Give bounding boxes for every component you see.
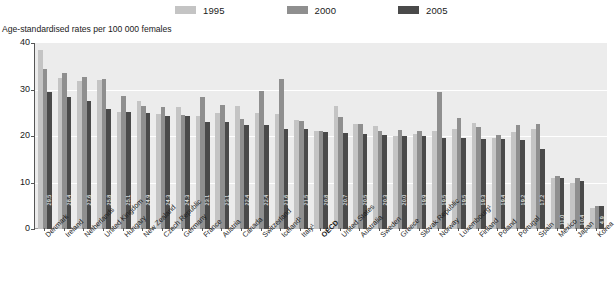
bar-group: 20.7 bbox=[331, 43, 351, 229]
bar-2005: 23.1 bbox=[225, 122, 230, 229]
bar-2005: 28.4 bbox=[67, 97, 72, 229]
bar-2005: 19.9 bbox=[422, 136, 427, 229]
category-label-new-zealand: New Zealand bbox=[133, 231, 153, 288]
category-label-ireland: Ireland bbox=[54, 231, 74, 288]
bar-value-label: 29.5 bbox=[46, 195, 52, 206]
bar-group: 25.8 bbox=[94, 43, 114, 229]
bar-2005: 24.9 bbox=[146, 113, 151, 229]
bar-value-label: 21.5 bbox=[303, 195, 309, 206]
legend-label: 2005 bbox=[426, 5, 448, 16]
bar-2005: 27.6 bbox=[87, 101, 92, 229]
bar-2005: 20.7 bbox=[343, 133, 348, 229]
bar-value-label: 19.4 bbox=[500, 195, 506, 206]
bar-value-label: 20.3 bbox=[382, 195, 388, 206]
legend-label: 2000 bbox=[315, 5, 337, 16]
legend-item-2000: 2000 bbox=[287, 5, 337, 16]
bar-group: 20.5 bbox=[351, 43, 371, 229]
category-label-mexico: Mexico bbox=[547, 231, 567, 288]
bar-group: 19.2 bbox=[508, 43, 528, 229]
category-label-slovak-republic: Slovak Republic bbox=[409, 231, 429, 288]
y-axis-tick-label: 30 bbox=[0, 84, 30, 94]
bar-value-label: 28.4 bbox=[66, 195, 72, 206]
category-label-czech-republic: Czech Republic bbox=[152, 231, 172, 288]
bar-2005: 22.4 bbox=[264, 125, 269, 229]
category-label-finland: Finland bbox=[468, 231, 488, 288]
bar-2005: 20.8 bbox=[323, 132, 328, 229]
bar-2005: 20.0 bbox=[402, 136, 407, 229]
bar-group: 24.3 bbox=[173, 43, 193, 229]
legend-label: 1995 bbox=[203, 5, 225, 16]
bar-2005: 10.4 bbox=[580, 181, 585, 229]
category-label-iceland: Iceland¹ bbox=[271, 231, 291, 288]
bar-value-label: 21.6 bbox=[283, 195, 289, 206]
y-axis-tick-label: 40 bbox=[0, 37, 30, 47]
category-label-austria: Austria bbox=[211, 231, 231, 288]
bar-value-label: 19.9 bbox=[421, 195, 427, 206]
plot-area: 29.528.427.625.825.124.924.324.323.123.1… bbox=[34, 43, 607, 229]
bar-value-label: 22.4 bbox=[244, 195, 250, 206]
legend-item-1995: 1995 bbox=[175, 5, 225, 16]
bar-value-label: 23.1 bbox=[204, 195, 210, 206]
bar-groups: 29.528.427.625.825.124.924.324.323.123.1… bbox=[35, 43, 607, 229]
bar-group: 21.6 bbox=[272, 43, 292, 229]
category-label-greece: Greece bbox=[389, 231, 409, 288]
bar-value-label: 19.5 bbox=[461, 195, 467, 206]
bar-group: 19.9 bbox=[410, 43, 430, 229]
bar-group: 11.0 bbox=[548, 43, 568, 229]
bar-group: 28.4 bbox=[55, 43, 75, 229]
bar-group: 10.4 bbox=[567, 43, 587, 229]
category-label-australia: Australia bbox=[350, 231, 370, 288]
bar-2005: 21.5 bbox=[304, 129, 309, 229]
bar-value-label: 25.8 bbox=[106, 195, 112, 206]
category-label-japan: Japan bbox=[566, 231, 586, 288]
legend-swatch-icon bbox=[287, 6, 308, 14]
category-label-denmark: Denmark bbox=[34, 231, 54, 288]
bar-group: 19.3 bbox=[469, 43, 489, 229]
category-label-hungary: Hungary bbox=[113, 231, 133, 288]
bar-group: 19.5 bbox=[429, 43, 449, 229]
bar-2005: 19.4 bbox=[501, 139, 506, 229]
category-label-luxembourg: Luxembourg¹ bbox=[448, 231, 468, 288]
bar-2005: 19.5 bbox=[461, 138, 466, 229]
bar-value-label: 20.8 bbox=[323, 195, 329, 206]
bar-value-label: 20.0 bbox=[401, 195, 407, 206]
bar-group: 22.4 bbox=[232, 43, 252, 229]
category-label-united-kingdom: United Kingdom bbox=[93, 231, 113, 288]
category-label-oecd: OECD bbox=[310, 231, 330, 288]
bar-value-label: 19.2 bbox=[520, 195, 526, 206]
legend-swatch-icon bbox=[175, 6, 196, 14]
legend-swatch-icon bbox=[398, 6, 419, 14]
category-label-korea: Korea bbox=[586, 231, 606, 288]
category-label-germany: Germany bbox=[172, 231, 192, 288]
category-label-united-states: United States bbox=[330, 231, 350, 288]
bar-group: 24.3 bbox=[153, 43, 173, 229]
category-label-portugal: Portugal bbox=[507, 231, 527, 288]
bar-2005: 29.5 bbox=[47, 92, 52, 229]
category-label-switzerland: Switzerland bbox=[251, 231, 271, 288]
bar-group: 20.3 bbox=[370, 43, 390, 229]
bar-value-label: 24.9 bbox=[145, 195, 151, 206]
bar-value-label: 23.1 bbox=[224, 195, 230, 206]
bar-group: 23.1 bbox=[212, 43, 232, 229]
bar-group: 20.8 bbox=[311, 43, 331, 229]
bar-value-label: 17.2 bbox=[539, 195, 545, 206]
category-label-spain: Spain bbox=[527, 231, 547, 288]
bar-group: 19.4 bbox=[489, 43, 509, 229]
y-axis-tick-mark bbox=[31, 229, 35, 230]
y-axis-tick-label: 10 bbox=[0, 177, 30, 187]
bar-group: 27.6 bbox=[74, 43, 94, 229]
category-label-norway: Norway bbox=[428, 231, 448, 288]
bar-group: 22.4 bbox=[252, 43, 272, 229]
bar-2005: 19.2 bbox=[520, 140, 525, 229]
bar-2005: 17.2 bbox=[540, 149, 545, 229]
bar-group: 29.5 bbox=[35, 43, 55, 229]
category-label-france: France bbox=[192, 231, 212, 288]
category-axis: DenmarkIrelandNetherlandsUnited KingdomH… bbox=[34, 231, 606, 288]
bar-2005: 22.4 bbox=[244, 125, 249, 229]
bar-2005: 20.3 bbox=[382, 135, 387, 229]
y-axis-title: Age-standardised rates per 100 000 femal… bbox=[2, 24, 172, 34]
bar-group: 25.1 bbox=[114, 43, 134, 229]
bar-value-label: 22.4 bbox=[263, 195, 269, 206]
bar-2005: 23.1 bbox=[205, 122, 210, 229]
